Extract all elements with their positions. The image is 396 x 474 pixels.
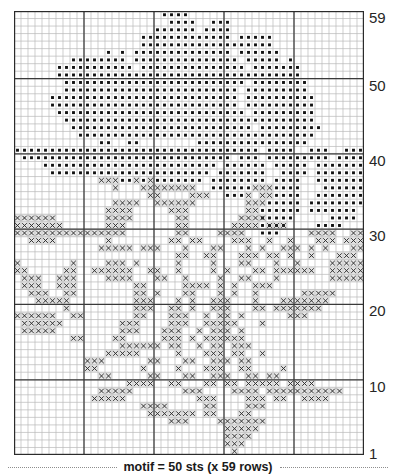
caption-rule-left — [8, 467, 117, 468]
row-number-10: 10 — [369, 379, 386, 394]
row-number-50: 50 — [369, 78, 386, 93]
knitting-chart — [14, 11, 364, 455]
row-number-20: 20 — [369, 303, 386, 318]
row-number-axis: 5950403020101 — [369, 0, 396, 474]
chart-caption: motif = 50 sts (x 59 rows) — [0, 459, 396, 474]
row-number-59: 59 — [369, 10, 386, 25]
caption-rule-right — [280, 467, 389, 468]
chart-grid — [14, 11, 364, 455]
caption-text: motif = 50 sts (x 59 rows) — [117, 460, 280, 474]
row-number-30: 30 — [369, 228, 386, 243]
row-number-40: 40 — [369, 153, 386, 168]
